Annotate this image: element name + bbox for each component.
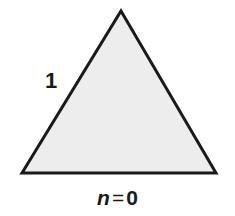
caption-value: 0: [126, 186, 138, 209]
figure-root: 1 n=0: [0, 0, 235, 216]
caption-equals-sign: =: [110, 186, 126, 209]
triangle-diagram: [0, 0, 235, 216]
caption-variable: n: [97, 186, 110, 209]
side-length-label: 1: [40, 70, 62, 92]
iteration-caption: n=0: [0, 186, 235, 210]
